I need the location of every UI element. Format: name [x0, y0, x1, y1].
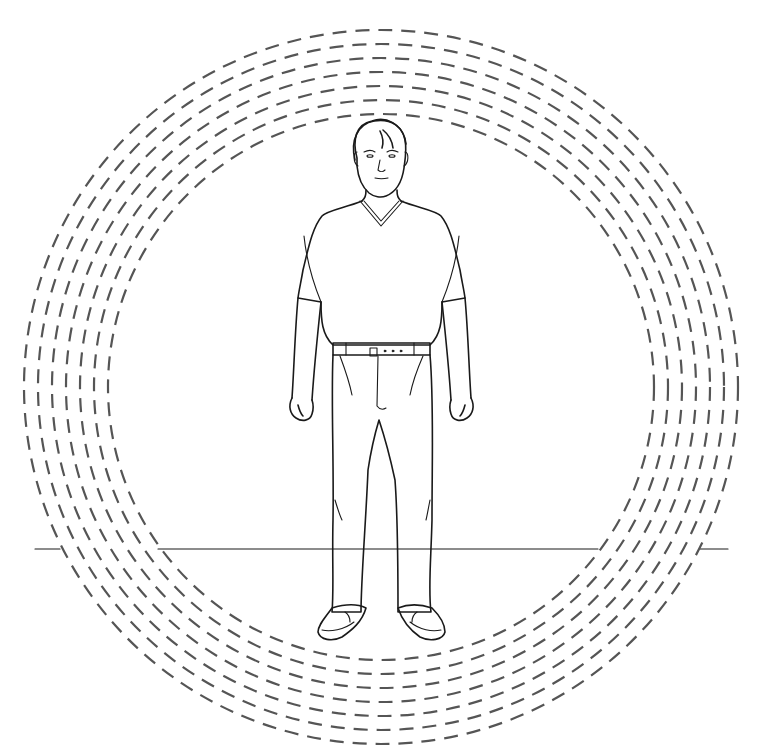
v-neck-collar — [360, 201, 403, 226]
mouth — [375, 178, 388, 179]
shirt-outline — [298, 201, 465, 345]
illustration: standing man in v-neck t-shirt and trous… — [0, 0, 760, 756]
hand-left — [290, 398, 313, 420]
eye-left — [367, 155, 373, 158]
pocket-left — [340, 356, 352, 395]
dashed-ring — [52, 58, 710, 716]
dashed-ring — [94, 100, 668, 674]
hair — [354, 120, 406, 160]
arm-left — [292, 298, 321, 400]
illustration-canvas — [0, 0, 760, 756]
dashed-ring — [24, 30, 738, 744]
dashed-ring — [108, 114, 654, 660]
shoe-right — [398, 605, 445, 640]
sleeve-left-hem — [304, 236, 321, 302]
sleeve-right-hem — [442, 236, 459, 302]
dashed-ring — [80, 86, 682, 688]
shoe-right-detail — [410, 612, 441, 631]
trouser-crease-right — [426, 500, 430, 520]
trousers-outline — [332, 355, 433, 612]
fly-seam — [377, 356, 386, 409]
eyebrow-left — [364, 151, 375, 153]
shoe-left — [318, 605, 366, 640]
standing-figure — [290, 120, 473, 640]
trouser-crease-left — [335, 500, 342, 520]
dashed-ring — [66, 72, 696, 702]
nose — [378, 160, 385, 172]
dashed-ring — [38, 44, 724, 730]
arm-right — [442, 298, 471, 400]
eyebrow-right — [387, 151, 398, 153]
belt-holes — [384, 350, 402, 352]
pocket-right — [410, 356, 423, 395]
eye-right — [389, 155, 395, 158]
hand-right — [450, 398, 473, 420]
dashed-rings — [24, 30, 738, 744]
